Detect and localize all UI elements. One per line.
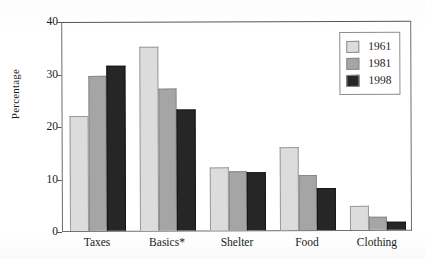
bar-group bbox=[132, 22, 203, 230]
legend-label: 1981 bbox=[368, 57, 391, 69]
bar-basics-1961 bbox=[140, 47, 159, 231]
bar-taxes-1961 bbox=[70, 115, 89, 231]
legend-label: 1998 bbox=[368, 74, 391, 86]
x-axis-tick-label: Food bbox=[272, 236, 342, 248]
bar-shelter-1961 bbox=[210, 167, 229, 230]
y-axis-title: Percentage bbox=[9, 49, 21, 139]
bar-taxes-1998 bbox=[107, 65, 126, 230]
x-axis-tick-label: Shelter bbox=[202, 236, 272, 248]
legend-swatch-icon bbox=[346, 40, 359, 52]
bar-clothing-1998 bbox=[387, 222, 406, 230]
bar-clothing-1961 bbox=[350, 206, 369, 230]
chart-legend: 196119811998 bbox=[339, 32, 400, 95]
y-axis-tick-label: 10 bbox=[32, 174, 58, 186]
bar-basics-1998 bbox=[177, 110, 196, 231]
plot-area: 196119811998 bbox=[61, 21, 412, 232]
x-axis-tick-label: Taxes bbox=[62, 236, 132, 248]
x-axis-tick-label: Basics* bbox=[132, 236, 202, 248]
bar-taxes-1981 bbox=[88, 76, 107, 231]
y-axis-tick-label: 20 bbox=[32, 121, 58, 133]
legend-item-1981: 1981 bbox=[346, 55, 391, 72]
bar-shelter-1981 bbox=[229, 171, 248, 230]
bar-group bbox=[272, 22, 343, 230]
legend-swatch-icon bbox=[346, 57, 359, 69]
x-axis-tick-labels: TaxesBasics*ShelterFoodClothing bbox=[62, 236, 412, 256]
bar-food-1998 bbox=[317, 188, 336, 230]
bar-clothing-1981 bbox=[369, 217, 388, 230]
legend-item-1998: 1998 bbox=[346, 72, 391, 89]
x-axis-tick-label: Clothing bbox=[342, 236, 412, 248]
bar-basics-1981 bbox=[158, 89, 177, 231]
y-axis-tick-mark bbox=[57, 232, 62, 233]
bar-shelter-1998 bbox=[247, 172, 266, 230]
y-axis-tick-labels: 010203040 bbox=[30, 0, 58, 259]
legend-label: 1961 bbox=[368, 40, 391, 52]
bar-group bbox=[202, 22, 273, 230]
bar-chart: Percentage 010203040 196119811998 TaxesB… bbox=[0, 0, 425, 259]
y-axis-tick-label: 30 bbox=[32, 69, 58, 81]
legend-swatch-icon bbox=[346, 74, 359, 86]
y-axis-tick-label: 40 bbox=[32, 16, 58, 28]
legend-item-1961: 1961 bbox=[346, 38, 391, 55]
bar-group bbox=[62, 23, 133, 231]
bar-food-1961 bbox=[280, 147, 299, 230]
y-axis-tick-label: 0 bbox=[32, 226, 58, 238]
bar-food-1981 bbox=[299, 175, 318, 230]
